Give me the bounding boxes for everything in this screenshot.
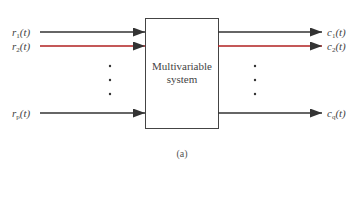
system-box-label-line1: Multivariable [146,60,218,73]
system-box-label: Multivariable system [146,60,218,86]
output-label-cq: cq(t) [327,107,346,123]
output-label-c2: c2(t) [327,40,346,56]
output-ellipsis-dots [254,65,256,95]
system-box-label-line2: system [146,73,218,86]
input-ellipsis-dots [109,65,111,95]
input-label-r2: r2(t) [12,40,30,56]
block-diagram-canvas [0,0,364,199]
input-label-rp: rp(t) [12,107,30,123]
figure-caption: (a) [160,148,204,159]
